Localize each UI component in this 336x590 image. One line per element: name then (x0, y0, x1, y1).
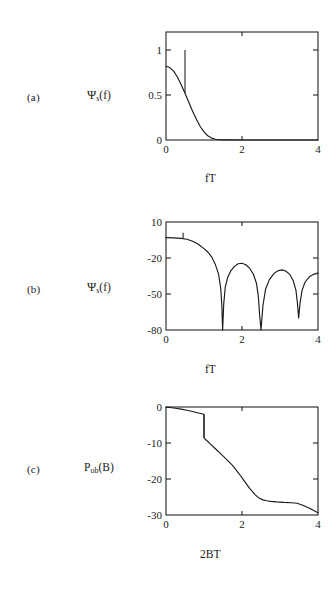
panel-c-ylabel-arg: (B) (98, 461, 113, 473)
panel-b-ylabel-arg: (f) (99, 281, 111, 293)
svg-text:0: 0 (157, 134, 163, 146)
svg-text:0.5: 0.5 (148, 89, 162, 101)
figure-root: (a) Ψs(f) 02400.51 fT (b) Ψs(f) 02410-20… (0, 0, 336, 590)
svg-text:4: 4 (315, 518, 321, 530)
panel-a-ylabel-symbol: Ψ (87, 88, 96, 102)
panel-b: (b) Ψs(f) 02410-20-50-80 fT (0, 196, 336, 392)
panel-c-plot: 0240-10-20-30 (132, 401, 328, 537)
svg-text:2: 2 (239, 143, 245, 155)
svg-text:-50: -50 (147, 288, 162, 300)
panel-c-xlabel: 2BT (200, 548, 220, 560)
panel-b-ylabel: Ψs(f) (87, 281, 111, 297)
svg-text:4: 4 (315, 143, 321, 155)
panel-b-xlabel: fT (205, 363, 216, 375)
svg-text:-20: -20 (147, 252, 162, 264)
panel-a-ylabel-arg: (f) (99, 89, 111, 101)
panel-c-ylabel: Pob(B) (84, 461, 114, 477)
svg-text:-80: -80 (147, 324, 162, 336)
panel-b-letter: (b) (27, 284, 40, 295)
svg-text:10: 10 (151, 216, 163, 228)
panel-a-svg: 02400.51 (132, 26, 328, 162)
svg-text:0: 0 (163, 143, 169, 155)
svg-text:0: 0 (163, 333, 169, 345)
panel-c: (c) Pob(B) 0240-10-20-30 2BT (0, 393, 336, 589)
panel-b-svg: 02410-20-50-80 (132, 216, 328, 352)
svg-text:1: 1 (157, 44, 163, 56)
panel-a-letter: (a) (27, 92, 40, 103)
svg-text:-20: -20 (147, 473, 162, 485)
svg-text:0: 0 (163, 518, 169, 530)
svg-text:2: 2 (239, 518, 245, 530)
svg-text:-30: -30 (147, 509, 162, 521)
panel-a-plot: 02400.51 (132, 26, 328, 162)
panel-a-xlabel: fT (205, 172, 216, 184)
svg-text:0: 0 (157, 401, 163, 413)
svg-text:2: 2 (239, 333, 245, 345)
panel-b-plot: 02410-20-50-80 (132, 216, 328, 352)
svg-text:4: 4 (315, 333, 321, 345)
svg-text:-10: -10 (147, 437, 162, 449)
panel-b-ylabel-symbol: Ψ (87, 280, 96, 294)
panel-a: (a) Ψs(f) 02400.51 fT (0, 0, 336, 196)
panel-c-letter: (c) (27, 464, 40, 475)
panel-c-svg: 0240-10-20-30 (132, 401, 328, 537)
panel-a-ylabel: Ψs(f) (87, 89, 111, 105)
